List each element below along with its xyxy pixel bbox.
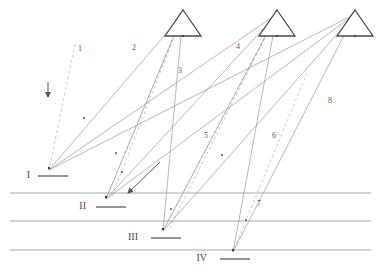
ground-station-marker: I [27, 167, 68, 180]
measurement-points [83, 117, 247, 221]
ray-number-label: 5 [204, 131, 208, 140]
ray-number-label: 2 [132, 43, 136, 52]
solid-sighting-ray [106, 14, 277, 199]
ground-station-marker: II [79, 196, 126, 211]
ground-marker-node [162, 228, 164, 230]
ground-marker-node [48, 167, 50, 169]
dashed-sighting-ray [169, 14, 277, 229]
ground-station-marker: IV [196, 249, 250, 263]
station-center-point [354, 35, 356, 37]
solid-sighting-ray [106, 14, 355, 199]
station-center-point [182, 35, 184, 37]
ray-number-label: 4 [236, 42, 240, 51]
survey-diagram-canvas: IIIIIIIV 12345678 [0, 0, 381, 275]
solid-sighting-ray [49, 14, 355, 170]
ground-marker-roman-label: IV [196, 252, 207, 263]
ground-marker-roman-label: I [27, 169, 30, 180]
measurement-point [245, 219, 247, 221]
ground-marker-node [232, 249, 234, 251]
triangulation-station [259, 10, 295, 37]
ray-number-label: 7 [257, 199, 261, 208]
measurement-point [221, 154, 223, 156]
triangulation-station [165, 10, 201, 37]
solid-sighting-rays [49, 14, 355, 252]
solid-sighting-ray [106, 14, 183, 199]
measurement-point [115, 152, 117, 154]
ray-number-label: 6 [272, 131, 276, 140]
ray-number-label: 1 [78, 44, 82, 53]
dashed-sighting-ray [233, 73, 307, 252]
ground-marker-roman-label: II [79, 200, 86, 211]
dashed-sighting-rays [49, 14, 307, 252]
dashed-sighting-ray [49, 44, 75, 170]
ground-marker-node [105, 196, 107, 198]
horizontal-reference-lines [10, 193, 371, 250]
dashed-sighting-ray [112, 14, 183, 196]
measurement-point [121, 171, 123, 173]
measurement-point [83, 117, 85, 119]
solid-sighting-ray [233, 14, 355, 252]
measurement-point [170, 208, 172, 210]
direction-arrow [128, 162, 160, 193]
ray-number-label: 3 [178, 66, 182, 75]
diagram-svg: IIIIIIIV 12345678 [0, 0, 381, 275]
station-triangle-icon [165, 10, 201, 36]
ray-number-label: 8 [328, 96, 332, 105]
ground-marker-roman-label: III [128, 231, 138, 242]
station-center-point [276, 35, 278, 37]
ground-station-markers: IIIIIIIV [27, 167, 250, 263]
ground-station-marker: III [128, 228, 181, 242]
